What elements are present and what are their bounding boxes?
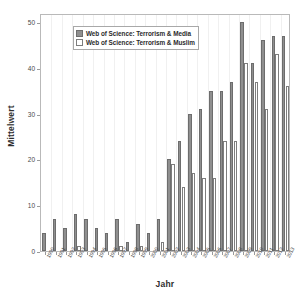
bar-media-1991: [53, 219, 56, 251]
legend-swatch-media-icon: [76, 30, 83, 37]
bar-muslim-2004: [192, 173, 195, 251]
bar-muslim-2012: [275, 54, 278, 251]
grid-line-vertical: [93, 15, 94, 251]
y-tick-mark: [37, 23, 40, 24]
bar-muslim-2002: [171, 164, 174, 251]
bar-media-1994: [84, 219, 87, 251]
legend-swatch-muslim-icon: [76, 39, 83, 46]
bar-muslim-2006: [213, 178, 216, 251]
bar-muslim-2013: [286, 86, 289, 251]
grid-line-vertical: [62, 15, 63, 251]
y-tick-label: 0: [31, 247, 35, 256]
y-tick-label: 20: [28, 155, 35, 164]
y-tick-label: 10: [28, 201, 35, 210]
y-tick-label: 30: [28, 110, 35, 119]
grid-line-vertical: [145, 15, 146, 251]
y-tick-mark: [37, 206, 40, 207]
y-axis-title-text: Mittelwert: [6, 105, 16, 147]
grid-line-vertical: [114, 15, 115, 251]
grid-line-vertical: [104, 15, 105, 251]
bar-muslim-2009: [244, 63, 247, 251]
bar-muslim-2008: [234, 141, 237, 251]
bar-muslim-2007: [223, 141, 226, 251]
bar-muslim-2003: [182, 187, 185, 251]
grid-line-vertical: [156, 15, 157, 251]
legend-item-muslim: Web of Science: Terrorism & Muslim: [76, 38, 195, 47]
bar-media-1990: [42, 233, 45, 251]
bar-muslim-2005: [202, 178, 205, 251]
grid-line-vertical: [51, 15, 52, 251]
y-tick-mark: [37, 252, 40, 253]
chart-figure: Mittelwert 01020304050199019911992199319…: [0, 0, 304, 297]
chart-legend: Web of Science: Terrorism & Media Web of…: [73, 26, 199, 50]
legend-label-muslim: Web of Science: Terrorism & Muslim: [86, 39, 195, 46]
bar-muslim-2011: [265, 109, 268, 251]
y-axis-title: Mittelwert: [2, 0, 20, 252]
legend-label-media: Web of Science: Terrorism & Media: [86, 30, 191, 37]
y-tick-mark: [37, 160, 40, 161]
grid-line-vertical: [135, 15, 136, 251]
legend-item-media: Web of Science: Terrorism & Media: [76, 29, 195, 38]
bar-muslim-2010: [255, 82, 258, 251]
grid-line-vertical: [83, 15, 84, 251]
x-axis-title: Jahr: [40, 279, 290, 289]
y-tick-label: 50: [28, 18, 35, 27]
y-tick-label: 40: [28, 64, 35, 73]
y-tick-mark: [37, 69, 40, 70]
grid-line-vertical: [124, 15, 125, 251]
y-tick-mark: [37, 115, 40, 116]
